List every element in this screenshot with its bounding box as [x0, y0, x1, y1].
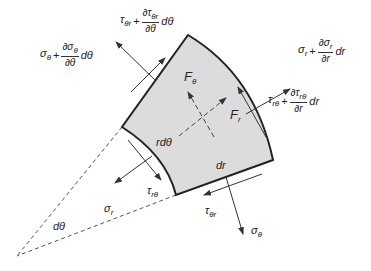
label-tau-theta-r: τθr	[205, 205, 216, 219]
label-dtheta: dθ	[53, 221, 65, 232]
sigma-theta-arrow	[226, 177, 243, 234]
label-f-theta: Fθ	[184, 70, 196, 86]
label-dr: dr	[216, 160, 226, 171]
label-sigma-r-plus: σr + ∂σr ∂r dr	[298, 38, 345, 64]
label-tau-r-theta: τrθ	[147, 185, 158, 199]
label-sigma-theta: σθ	[251, 225, 262, 239]
sector-line-upper	[17, 127, 122, 256]
label-r-dtheta: rdθ	[156, 137, 172, 148]
label-f-r: Fr	[230, 108, 241, 124]
stress-element	[122, 35, 273, 195]
label-tau-theta-r-plus: τθr + ∂τθr ∂θ dθ	[120, 8, 173, 34]
sector-line-lower	[17, 195, 176, 256]
label-sigma-theta-plus: σθ + ∂σθ ∂θ dθ	[40, 42, 93, 68]
label-tau-r-theta-plus: τrθ + ∂τrθ ∂r dr	[268, 88, 319, 114]
label-sigma-r: σr	[104, 203, 113, 217]
sigma-r-arrow	[115, 156, 152, 183]
